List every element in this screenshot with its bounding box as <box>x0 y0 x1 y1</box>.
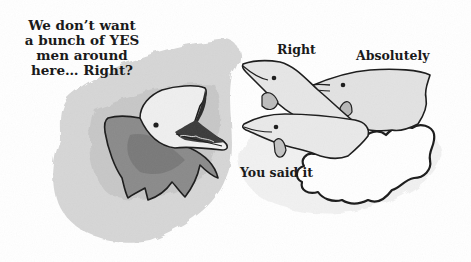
boss-speech-caption: We don’t want a bunch of YES men around … <box>22 18 142 78</box>
right-caption: Right <box>277 43 316 57</box>
you-said-it-caption: You said it <box>240 166 313 180</box>
cartoon-canvas: We don’t want a bunch of YES men around … <box>0 0 471 262</box>
absolutely-caption: Absolutely <box>356 49 429 63</box>
